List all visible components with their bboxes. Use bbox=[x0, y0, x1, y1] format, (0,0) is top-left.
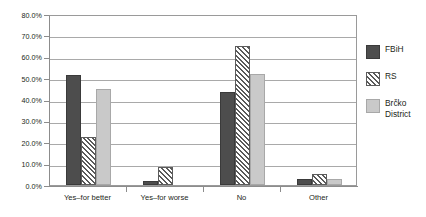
gridline bbox=[50, 59, 356, 60]
x-axis-separator bbox=[126, 186, 127, 192]
bar bbox=[81, 137, 96, 185]
x-axis-category-label: Yes–for worse bbox=[126, 193, 203, 202]
y-axis-tick-label: 0.0% bbox=[0, 182, 42, 191]
legend-label-brcko: Brčko District bbox=[385, 98, 426, 119]
y-axis-tick-label: 80.0% bbox=[0, 11, 42, 20]
y-axis-tick-label: 20.0% bbox=[0, 139, 42, 148]
legend-swatch-fbih bbox=[366, 45, 380, 59]
y-axis-tick-label: 50.0% bbox=[0, 75, 42, 84]
legend-item-2: Brčko District bbox=[366, 98, 426, 119]
bar bbox=[143, 181, 158, 185]
bar bbox=[312, 174, 327, 185]
gridline bbox=[50, 37, 356, 38]
bar bbox=[327, 179, 342, 185]
bar-chart: 80.0%70.0%60.0%50.0%40.0%30.0%20.0%10.0%… bbox=[0, 0, 426, 217]
y-axis-tick-label: 40.0% bbox=[0, 96, 42, 105]
bar bbox=[297, 179, 312, 185]
y-axis-tick-label: 70.0% bbox=[0, 32, 42, 41]
plot-area bbox=[49, 15, 357, 186]
x-axis-category-label: No bbox=[203, 193, 280, 202]
gridline bbox=[50, 80, 356, 81]
legend-item-0: FBiH bbox=[366, 44, 426, 58]
legend-swatch-brcko bbox=[366, 99, 380, 113]
bar bbox=[96, 89, 111, 185]
legend-swatch-rs bbox=[366, 72, 380, 86]
x-axis-category-label: Yes–for better bbox=[49, 193, 126, 202]
x-axis-category-label: Other bbox=[280, 193, 357, 202]
bar bbox=[250, 74, 265, 185]
legend-item-1: RS bbox=[366, 71, 426, 85]
y-axis-tick-label: 60.0% bbox=[0, 53, 42, 62]
chart-legend: FBiH RS Brčko District bbox=[366, 44, 426, 132]
legend-label-fbih: FBiH bbox=[385, 44, 426, 55]
legend-label-rs: RS bbox=[385, 71, 426, 82]
x-axis-separator bbox=[280, 186, 281, 192]
x-axis-separator bbox=[203, 186, 204, 192]
bar bbox=[235, 46, 250, 185]
y-axis-tick-label: 10.0% bbox=[0, 160, 42, 169]
bar bbox=[66, 75, 81, 185]
bar bbox=[220, 92, 235, 185]
y-axis-tick-label: 30.0% bbox=[0, 117, 42, 126]
bar bbox=[158, 167, 173, 185]
